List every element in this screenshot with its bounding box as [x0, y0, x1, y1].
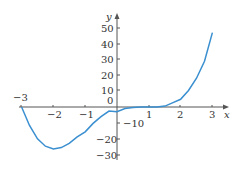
y-axis-label: y	[105, 11, 112, 22]
y-tick-label: 50	[101, 23, 114, 34]
chart: −3 −2 −1 1 2 3 x y 50 40 30 20 10 0 −10 …	[0, 0, 242, 170]
x-tick-label: −2	[47, 109, 62, 120]
y-tick-label: 20	[101, 70, 114, 81]
y-tick-label: 40	[101, 39, 114, 50]
x-tick-label: 3	[209, 109, 215, 120]
x-tick-label: −1	[79, 109, 94, 120]
y-tick-label: 30	[101, 54, 114, 65]
y-tick-label: −30	[96, 150, 117, 161]
x-tick-label: −3	[13, 92, 28, 103]
x-axis-label: x	[224, 109, 230, 120]
y-tick-label: −20	[96, 134, 117, 145]
y-axis-arrow-icon	[115, 13, 120, 19]
y-tick-label: −10	[123, 118, 144, 129]
x-tick-label: 1	[146, 109, 152, 120]
y-tick-label: 0	[107, 95, 113, 106]
x-tick-label: 2	[177, 109, 183, 120]
